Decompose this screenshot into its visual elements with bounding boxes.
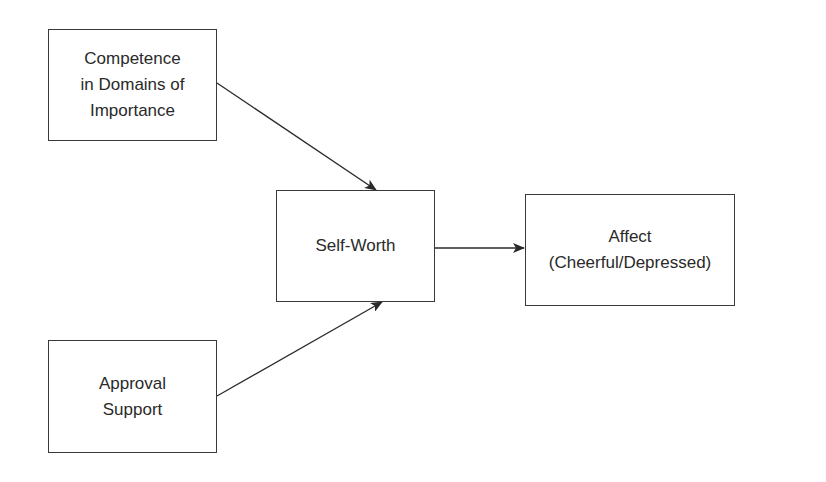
node-self-worth-label: Self-Worth bbox=[316, 233, 396, 259]
node-affect: Affect (Cheerful/Depressed) bbox=[525, 194, 735, 306]
arrow-competence-to-self-worth bbox=[217, 83, 376, 190]
node-competence: Competence in Domains of Importance bbox=[48, 29, 217, 141]
node-approval-label: Approval Support bbox=[99, 371, 166, 423]
node-affect-label: Affect (Cheerful/Depressed) bbox=[549, 224, 712, 276]
node-approval: Approval Support bbox=[48, 340, 217, 453]
node-self-worth: Self-Worth bbox=[276, 190, 435, 302]
arrow-approval-to-self-worth bbox=[217, 302, 382, 396]
node-competence-label: Competence in Domains of Importance bbox=[81, 46, 185, 124]
